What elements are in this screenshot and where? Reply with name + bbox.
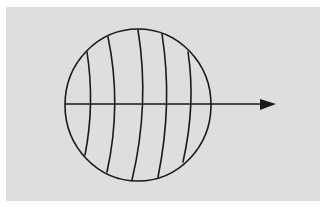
curved-line-5 (183, 52, 191, 162)
curved-line-4 (158, 34, 167, 177)
arrow-head-icon (260, 99, 276, 110)
wavefront-lines (85, 30, 191, 180)
sphere-diagram (0, 0, 324, 207)
curved-line-3 (132, 30, 143, 180)
